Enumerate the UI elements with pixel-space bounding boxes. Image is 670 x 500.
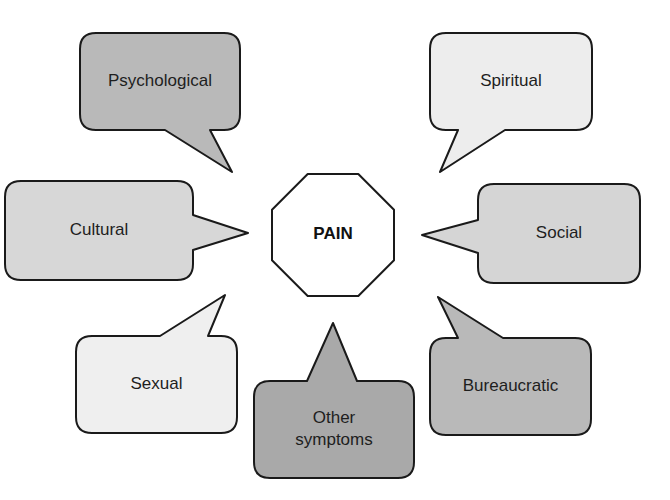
speech-bubble-psychological: Psychological bbox=[80, 33, 240, 172]
bubble-label: Sexual bbox=[131, 374, 183, 393]
bubble-shape bbox=[76, 295, 237, 433]
speech-bubble-spiritual: Spiritual bbox=[430, 33, 592, 172]
bubble-label: symptoms bbox=[295, 430, 372, 449]
bubble-shape bbox=[422, 184, 640, 283]
bubble-shape bbox=[254, 323, 414, 478]
speech-bubble-social: Social bbox=[422, 184, 640, 283]
diagram-canvas: PsychologicalSpiritualCulturalSocialSexu… bbox=[0, 0, 670, 500]
bubble-label: Spiritual bbox=[480, 71, 541, 90]
bubble-shape bbox=[430, 297, 591, 435]
speech-bubble-bureaucratic: Bureaucratic bbox=[430, 297, 591, 435]
speech-bubble-cultural: Cultural bbox=[5, 181, 248, 280]
center-label-text: PAIN bbox=[313, 224, 352, 243]
bubble-shape bbox=[80, 33, 240, 172]
bubble-shape bbox=[430, 33, 592, 172]
bubble-label: Cultural bbox=[70, 220, 129, 239]
bubble-label: Social bbox=[536, 223, 582, 242]
pain-diagram: PsychologicalSpiritualCulturalSocialSexu… bbox=[0, 0, 670, 500]
bubble-label: Psychological bbox=[108, 71, 212, 90]
center-octagon: PAIN bbox=[272, 174, 394, 296]
bubble-label: Other bbox=[313, 408, 356, 427]
speech-bubble-other-symptoms: Othersymptoms bbox=[254, 323, 414, 478]
speech-bubble-sexual: Sexual bbox=[76, 295, 237, 433]
bubble-label: Bureaucratic bbox=[463, 376, 559, 395]
